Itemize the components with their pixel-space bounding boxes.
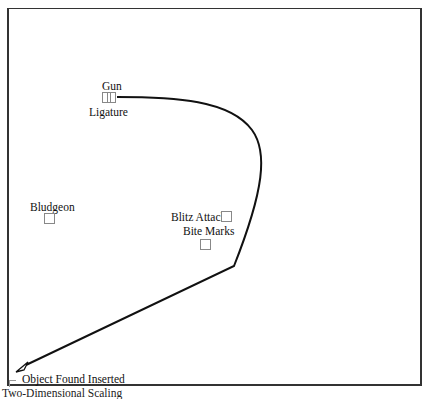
arrowhead-icon <box>16 362 28 372</box>
label-bludgeon: Bludgeon <box>30 201 75 213</box>
node-object-found-inserted[interactable] <box>9 380 16 387</box>
label-ligature: Ligature <box>89 106 128 118</box>
node-blitz-attack[interactable] <box>221 211 232 222</box>
node-bludgeon[interactable] <box>44 213 55 224</box>
label-blitz-attack: Blitz Attack <box>171 211 226 223</box>
label-object-found-inserted: Object Found Inserted <box>22 373 125 385</box>
label-bite-marks: Bite Marks <box>183 225 234 237</box>
node-gun-ligature[interactable] <box>102 92 116 103</box>
label-gun: Gun <box>102 80 122 92</box>
node-bite-marks[interactable] <box>200 239 211 250</box>
figure-caption: Two-Dimensional Scaling <box>2 387 122 399</box>
